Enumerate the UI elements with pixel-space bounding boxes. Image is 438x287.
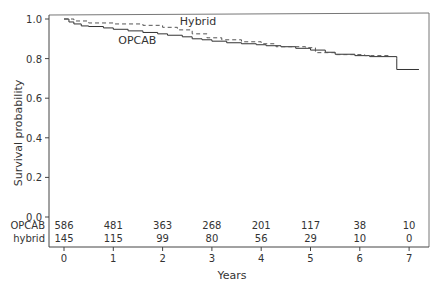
at-risk-table: OPCAB5864813632682011173810hybrid1451159… <box>10 220 415 244</box>
x-tick-label: 1 <box>110 253 116 264</box>
at-risk-value: 38 <box>353 220 366 231</box>
x-axis: 01234567 <box>61 247 412 264</box>
y-axis: 0.00.20.40.60.81.0 <box>26 14 49 223</box>
x-tick-label: 7 <box>406 253 412 264</box>
at-risk-value: 29 <box>304 233 317 244</box>
survival-chart: 0.00.20.40.60.81.0 01234567 OPCABHybrid … <box>0 0 438 287</box>
x-axis-label: Years <box>216 269 246 282</box>
y-tick-label: 0.4 <box>26 133 42 144</box>
x-tick-label: 6 <box>357 253 363 264</box>
at-risk-value: 56 <box>255 233 268 244</box>
at-risk-row-label: hybrid <box>13 233 45 244</box>
y-tick-label: 0.2 <box>26 172 42 183</box>
at-risk-value: 481 <box>104 220 123 231</box>
at-risk-value: 10 <box>403 220 416 231</box>
at-risk-value: 10 <box>353 233 366 244</box>
curve-hybrid <box>64 19 389 56</box>
x-tick-label: 0 <box>61 253 67 264</box>
at-risk-value: 80 <box>206 233 219 244</box>
y-tick-label: 1.0 <box>26 14 42 25</box>
x-tick-label: 3 <box>209 253 215 264</box>
at-risk-value: 586 <box>54 220 73 231</box>
x-tick-label: 2 <box>159 253 165 264</box>
at-risk-value: 99 <box>156 233 169 244</box>
label-opcab: OPCAB <box>118 34 156 47</box>
plot-frame <box>49 13 429 247</box>
at-risk-value: 0 <box>406 233 412 244</box>
y-tick-label: 0.6 <box>26 93 42 104</box>
label-hybrid: Hybrid <box>180 15 216 28</box>
at-risk-value: 201 <box>252 220 271 231</box>
at-risk-row-label: OPCAB <box>10 220 45 231</box>
at-risk-value: 115 <box>104 233 123 244</box>
at-risk-value: 363 <box>153 220 172 231</box>
at-risk-value: 145 <box>54 233 73 244</box>
x-tick-label: 5 <box>307 253 313 264</box>
x-tick-label: 4 <box>258 253 264 264</box>
y-axis-label: Survival probability <box>12 79 25 186</box>
at-risk-value: 268 <box>202 220 221 231</box>
at-risk-value: 117 <box>301 220 320 231</box>
y-tick-label: 0.8 <box>26 54 42 65</box>
